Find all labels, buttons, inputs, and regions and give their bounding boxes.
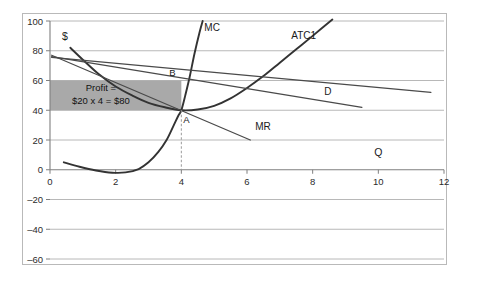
- y-axis-title: $: [62, 30, 68, 42]
- y-tick-label-4: 20: [32, 135, 43, 146]
- profit-annotation-line-2: $20 x 4 = $80: [72, 95, 130, 106]
- x-tick-label-1: 2: [113, 176, 118, 187]
- profit-annotation-line-1: Profit =: [86, 82, 117, 93]
- x-axis-title: Q: [374, 146, 382, 158]
- point-label-b: B: [169, 67, 175, 78]
- y-tick-label-2: 60: [32, 75, 43, 86]
- y-tick-label-5: 0: [38, 164, 43, 175]
- curve-label-mc: MC: [204, 22, 220, 33]
- y-tick-label-8: –60: [27, 254, 43, 265]
- x-tick-label-6: 12: [439, 176, 450, 187]
- curve-label-atc1: ATC1: [291, 30, 316, 41]
- point-label-a: A: [183, 114, 190, 125]
- gridlines-group: [50, 21, 444, 259]
- chart-plot: 100806040200–20–40–60024681012 MCATC1DMR…: [0, 0, 477, 291]
- x-tick-label-0: 0: [47, 176, 52, 187]
- chart-figure: 100806040200–20–40–60024681012 MCATC1DMR…: [0, 0, 477, 291]
- x-tick-label-3: 6: [244, 176, 249, 187]
- y-tick-label-7: –40: [27, 224, 43, 235]
- curve-label-d: D: [324, 86, 331, 97]
- y-tick-label-0: 100: [27, 16, 43, 27]
- x-tick-label-5: 10: [373, 176, 384, 187]
- y-tick-label-6: –20: [27, 194, 43, 205]
- curve-label-mr: MR: [255, 121, 271, 132]
- x-tick-label-4: 8: [310, 176, 315, 187]
- y-tick-label-3: 40: [32, 105, 43, 116]
- y-tick-label-1: 80: [32, 45, 43, 56]
- x-tick-label-2: 4: [179, 176, 184, 187]
